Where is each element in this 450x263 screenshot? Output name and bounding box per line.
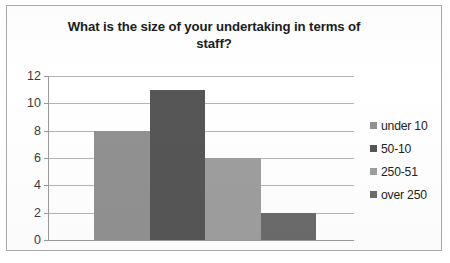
- chart-container: What is the size of your undertaking in …: [6, 5, 442, 251]
- legend-label-4: over 250: [381, 188, 427, 202]
- legend-item-2[interactable]: 50-10: [370, 137, 440, 160]
- y-axis-label-8: 8: [34, 124, 41, 138]
- y-axis-label-6: 6: [34, 151, 41, 165]
- legend-swatch-icon-1: [370, 122, 377, 129]
- bars-group: [49, 76, 354, 240]
- legend-swatch-icon-4: [370, 191, 377, 198]
- legend-item-4[interactable]: over 250: [370, 183, 440, 206]
- y-axis-label-12: 12: [27, 69, 41, 83]
- gridline-0: [48, 240, 354, 241]
- legend-item-3[interactable]: 250-51: [370, 160, 440, 183]
- legend-swatch-icon-2: [370, 145, 377, 152]
- chart-title-line-1: What is the size of your undertaking in …: [68, 19, 361, 34]
- y-axis-label-0: 0: [34, 233, 41, 247]
- bar-1[interactable]: [94, 131, 150, 240]
- y-axis-label-2: 2: [34, 206, 41, 220]
- legend-label-2: 50-10: [381, 142, 411, 156]
- bar-4[interactable]: [261, 213, 317, 240]
- plot-area: 121086420: [48, 76, 354, 240]
- bar-3[interactable]: [205, 158, 261, 240]
- y-axis-tick-0: [44, 240, 49, 241]
- chart-title: What is the size of your undertaking in …: [29, 18, 399, 52]
- chart-legend: under 1050-10250-51over 250: [370, 114, 440, 206]
- legend-label-1: under 10: [381, 119, 428, 133]
- y-axis-label-4: 4: [34, 178, 41, 192]
- legend-swatch-icon-3: [370, 168, 377, 175]
- legend-label-3: 250-51: [381, 165, 418, 179]
- y-axis-label-10: 10: [27, 96, 41, 110]
- chart-title-line-2: staff?: [196, 36, 231, 51]
- legend-item-1[interactable]: under 10: [370, 114, 440, 137]
- bar-2[interactable]: [150, 90, 206, 240]
